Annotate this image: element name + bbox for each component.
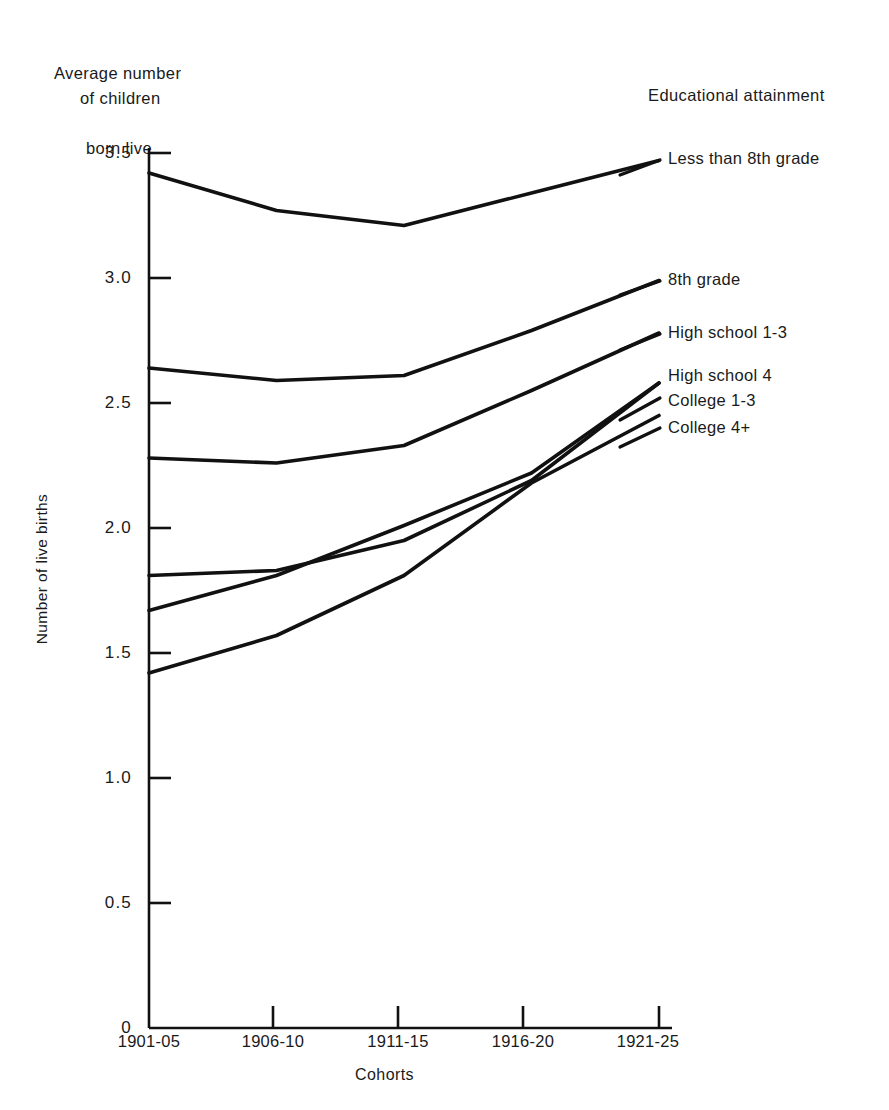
series-line-college-4	[149, 416, 659, 674]
y-axis-ticks	[149, 153, 171, 903]
series-line-high-school-4	[149, 383, 659, 576]
data-series-group	[149, 161, 659, 674]
label-leader-lines	[620, 160, 660, 447]
chart-plot-area	[0, 0, 889, 1110]
series-line-less-than-8th-grade	[149, 161, 659, 226]
series-line-8th-grade	[149, 281, 659, 381]
chart-page: Average number of children born live Edu…	[0, 0, 889, 1110]
x-axis-ticks	[273, 1006, 659, 1028]
